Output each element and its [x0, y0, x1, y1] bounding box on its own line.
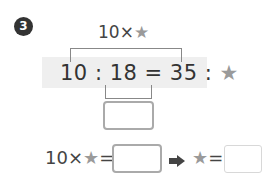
- answer-box-star[interactable]: [224, 145, 262, 173]
- ratio-left: 10 : 18: [60, 61, 137, 85]
- ratio-right-prefix: 35 :: [170, 61, 220, 85]
- ratio-equation: 10 : 18 = 35 : ★: [60, 60, 239, 86]
- star-icon: ★: [219, 61, 238, 85]
- equals-sign: =: [137, 61, 169, 85]
- star-icon: ★: [83, 147, 99, 168]
- second-equation-left: 10×★=: [45, 146, 114, 170]
- equals-sign: =: [208, 147, 223, 168]
- top-multiplier-label: 10×★: [98, 22, 158, 42]
- answer-box-multiplier[interactable]: [103, 101, 154, 130]
- answer-box-product[interactable]: [112, 144, 162, 173]
- arrow-right-icon: [169, 152, 185, 164]
- star-icon: ★: [134, 22, 149, 42]
- bottom-bracket: [105, 85, 152, 99]
- problem-number-badge: 3: [14, 17, 33, 36]
- star-icon: ★: [192, 147, 208, 168]
- second-prefix: 10×: [45, 147, 83, 168]
- top-label-prefix: 10×: [98, 22, 134, 42]
- second-equation-right: ★=: [192, 146, 223, 170]
